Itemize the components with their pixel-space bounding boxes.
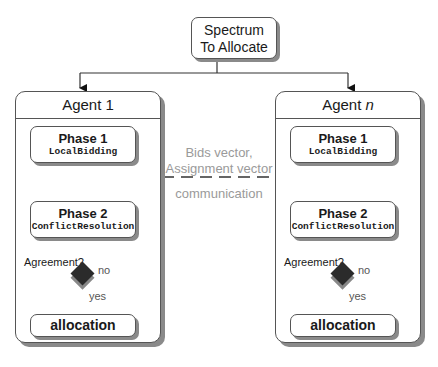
spectrum-node: Spectrum To Allocate: [191, 17, 277, 59]
assignment-vector-text: Assignment vector: [160, 161, 278, 177]
agent-1-phase2-box: Phase 2 ConflictResolution: [30, 201, 136, 238]
agent-n-no-label: no: [358, 264, 370, 276]
phase2-title: Phase 2: [291, 206, 395, 221]
agent-1-allocation-box: allocation: [30, 314, 136, 337]
agent-n-phase1-box: Phase 1 LocalBidding: [290, 126, 396, 163]
allocation-label: allocation: [291, 315, 395, 336]
agent-1-phase1-box: Phase 1 LocalBidding: [30, 126, 136, 163]
phase1-subtitle: LocalBidding: [291, 146, 395, 158]
phase1-title: Phase 1: [291, 131, 395, 146]
agent-n-phase2-box: Phase 2 ConflictResolution: [290, 201, 396, 238]
agent-n-yes-label: yes: [349, 290, 366, 302]
phase1-title: Phase 1: [31, 131, 135, 146]
agent-1-yes-label: yes: [89, 290, 106, 302]
spectrum-line1: Spectrum: [192, 22, 276, 39]
agent-n-title-var: n: [366, 96, 374, 113]
agent-1-title: Agent 1: [16, 92, 160, 119]
bids-vector-text: Bids vector,: [160, 145, 278, 161]
agent-n-title-prefix: Agent: [322, 96, 365, 113]
agent-1-agreement-label: Agreement?: [24, 256, 84, 268]
phase2-subtitle: ConflictResolution: [31, 221, 135, 233]
communication-vectors-label: Bids vector, Assignment vector: [160, 145, 278, 177]
agent-n-title: Agent n: [276, 92, 420, 119]
allocation-label: allocation: [31, 315, 135, 336]
agent-n-agreement-label: Agreement?: [284, 256, 344, 268]
agent-n-allocation-box: allocation: [290, 314, 396, 337]
spectrum-line2: To Allocate: [192, 39, 276, 56]
agent-1-no-label: no: [98, 264, 110, 276]
phase2-subtitle: ConflictResolution: [291, 221, 395, 233]
communication-label: communication: [160, 186, 278, 202]
phase2-title: Phase 2: [31, 206, 135, 221]
phase1-subtitle: LocalBidding: [31, 146, 135, 158]
